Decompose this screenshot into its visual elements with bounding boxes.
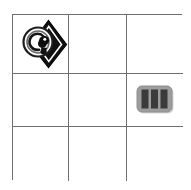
grid-cell-r1c2[interactable]: [127, 74, 183, 127]
grid-cell-r2c1[interactable]: [69, 127, 127, 181]
three-by-three-icon-grid: [12, 14, 182, 180]
grid-cell-r1c0[interactable]: [13, 74, 69, 127]
grid-cell-r0c2[interactable]: [127, 15, 183, 74]
grid-cell-r0c1[interactable]: [69, 15, 127, 74]
screenshot-canvas: [0, 0, 191, 190]
grid-cell-r1c1[interactable]: [69, 74, 127, 127]
barcode-icon[interactable]: [135, 83, 176, 116]
grid-cell-r2c2[interactable]: [127, 127, 183, 181]
grid-cell-r0c0[interactable]: [13, 15, 69, 74]
grid-cell-r2c0[interactable]: [13, 127, 69, 181]
diamond-eye-icon[interactable]: [19, 18, 69, 70]
